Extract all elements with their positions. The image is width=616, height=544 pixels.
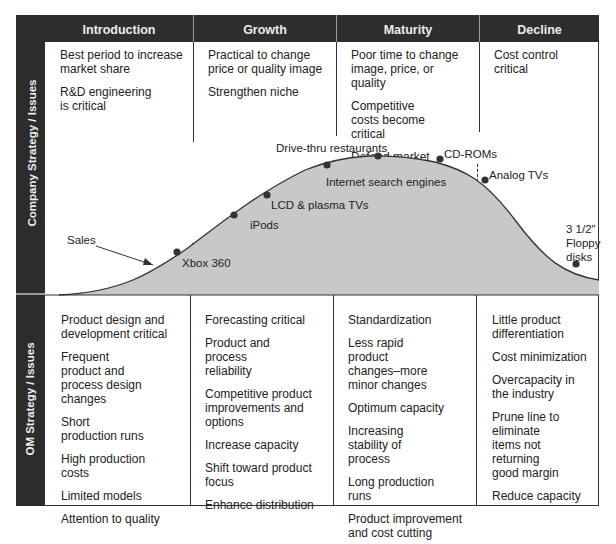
point-label-analog: Analog TVs bbox=[489, 169, 548, 182]
item: Poor time to change image, price, or qua… bbox=[351, 48, 471, 90]
point-label-cdroms: CD-ROMs bbox=[444, 148, 497, 161]
item: R&D engineering is critical bbox=[60, 85, 155, 113]
sales-label: Sales bbox=[67, 234, 96, 247]
item: Competitive product improvements and opt… bbox=[205, 387, 330, 429]
item: Little product differentiation bbox=[492, 313, 572, 341]
item: Frequent product and process design chan… bbox=[61, 350, 143, 406]
point-label-floppy: 3 1/2" Floppy disks bbox=[566, 222, 601, 264]
point-label-search: Internet search engines bbox=[326, 176, 446, 189]
sales-curve-chart bbox=[45, 140, 599, 296]
item: Long production runs bbox=[348, 475, 438, 503]
side-label-company: Company Strategy / Issues bbox=[26, 73, 38, 233]
header-growth: Growth bbox=[194, 15, 336, 42]
item: Product design and development critical bbox=[61, 313, 186, 341]
column-divider bbox=[193, 42, 194, 142]
company-growth-cell: Practical to change price or quality ima… bbox=[208, 48, 323, 108]
item: Attention to quality bbox=[61, 512, 186, 526]
item: Enhance distribution bbox=[205, 498, 330, 512]
item: Reduce capacity bbox=[492, 489, 597, 503]
point-label-lcd: LCD & plasma TVs bbox=[271, 199, 369, 212]
item: Prune line to eliminate items not return… bbox=[492, 410, 567, 480]
item: Overcapacity in the industry bbox=[492, 373, 577, 401]
floppy-line: Floppy bbox=[566, 236, 601, 250]
item: Product improvement and cost cutting bbox=[348, 512, 473, 540]
item: Cost minimization bbox=[492, 350, 597, 364]
item: Optimum capacity bbox=[348, 401, 473, 415]
item: Less rapid product changes–more minor ch… bbox=[348, 336, 438, 392]
item: Competitive costs become critical bbox=[351, 99, 441, 141]
company-intro-cell: Best period to increase market share R&D… bbox=[60, 48, 185, 122]
item: Product and process reliability bbox=[205, 336, 290, 378]
company-decline-cell: Cost control critical bbox=[494, 48, 574, 85]
point-label-ipods: iPods bbox=[250, 219, 279, 232]
item: Increasing stability of process bbox=[348, 424, 440, 466]
floppy-line: disks bbox=[566, 250, 601, 264]
om-decline-cell: Little product differentiation Cost mini… bbox=[492, 313, 597, 512]
item: Best period to increase market share bbox=[60, 48, 185, 76]
header-introduction: Introduction bbox=[45, 15, 193, 42]
column-divider bbox=[336, 42, 337, 136]
header-decline: Decline bbox=[480, 15, 599, 42]
om-growth-cell: Forecasting critical Product and process… bbox=[205, 313, 330, 521]
side-label-om: OM Strategy / Issues bbox=[24, 339, 36, 459]
item: Practical to change price or quality ima… bbox=[208, 48, 323, 76]
item: Strengthen niche bbox=[208, 85, 323, 99]
om-maturity-cell: Standardization Less rapid product chang… bbox=[348, 313, 473, 544]
floppy-line: 3 1/2" bbox=[566, 222, 601, 236]
item: Forecasting critical bbox=[205, 313, 330, 327]
om-intro-cell: Product design and development critical … bbox=[61, 313, 186, 535]
point-label-drivethru: Drive-thru restaurants bbox=[276, 142, 387, 155]
item: High production costs bbox=[61, 452, 146, 480]
item: Shift toward product focus bbox=[205, 461, 330, 489]
item: Increase capacity bbox=[205, 438, 330, 452]
column-divider bbox=[190, 295, 191, 506]
point-label-xbox: Xbox 360 bbox=[182, 257, 231, 270]
column-divider bbox=[476, 295, 477, 506]
item: Cost control critical bbox=[494, 48, 574, 76]
item: Short production runs bbox=[61, 415, 146, 443]
item: Standardization bbox=[348, 313, 473, 327]
sidebar-divider bbox=[16, 293, 45, 295]
header-maturity: Maturity bbox=[337, 15, 479, 42]
column-divider bbox=[479, 42, 480, 132]
column-divider bbox=[333, 295, 334, 506]
item: Limited models bbox=[61, 489, 186, 503]
